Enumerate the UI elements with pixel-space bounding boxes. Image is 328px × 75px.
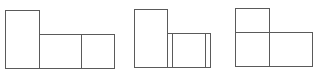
figure-3-bottom-left-box [236, 33, 270, 67]
diagram-canvas [0, 0, 328, 75]
figure-3-bottom-right-box [270, 33, 313, 67]
figure-2-tall-box [135, 10, 168, 68]
figure-3-top-box [236, 9, 270, 33]
figure-1-tall-box [6, 11, 40, 69]
figure-1 [6, 11, 115, 69]
figure-3 [236, 9, 313, 67]
figure-2-wide-box [168, 34, 211, 68]
figure-1-middle-box [40, 35, 82, 69]
figure-1-right-box [82, 35, 115, 69]
figure-2 [135, 10, 211, 68]
